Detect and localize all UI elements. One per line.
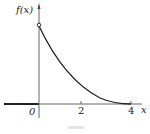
figure-caption-faint: [68, 126, 84, 129]
density-curve: [39, 26, 131, 104]
y-axis-label: f(x): [16, 5, 33, 15]
y-axis-arrow-icon: [38, 3, 41, 9]
tick-label-4: 4: [128, 106, 134, 116]
open-circle-marker: [37, 23, 41, 27]
tick-label-2: 2: [78, 106, 84, 116]
x-axis-label: x: [141, 105, 147, 115]
origin-label: 0: [29, 107, 35, 117]
